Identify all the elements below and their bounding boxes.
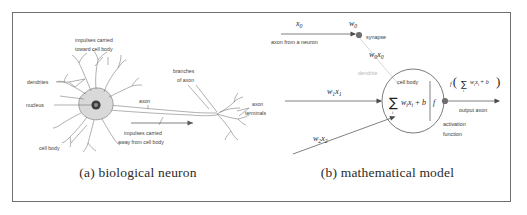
incoming-axon-arrow: [281, 32, 356, 37]
label-product-w0x0: w0x0: [369, 50, 384, 60]
summation-sigma: ∑: [389, 95, 398, 110]
output-node-dot: [442, 98, 448, 104]
output-expression: f(: [450, 74, 457, 89]
output-sigma-index: i: [463, 89, 464, 93]
label-cell-body-math: cell body: [397, 79, 419, 85]
panel-biological-neuron: impulses carried toward cell body dendri…: [13, 13, 263, 201]
summation-body: wixi+ b: [401, 98, 426, 108]
input-arrow-w1x1: [285, 99, 382, 104]
mathematical-model-drawing: x0 w0 axon from a neuron synapse w0x0 de…: [263, 13, 512, 163]
label-input-w1x1: w1x1: [327, 87, 342, 97]
caption-mathematical-model: (b) mathematical model: [263, 165, 512, 181]
label-impulses-away-line1: impulses carried: [124, 130, 162, 136]
output-sigma: ∑: [461, 79, 467, 89]
label-branches-line2: of axon: [177, 77, 194, 83]
label-input-x0: x0: [295, 19, 303, 29]
label-dendrites: dendrites: [27, 79, 49, 85]
label-nucleus: nucleus: [26, 102, 44, 108]
label-output-axon: output axon: [459, 107, 487, 113]
label-f-symbol: f: [433, 98, 437, 107]
label-axon: axon: [139, 98, 150, 104]
output-paren-close: ): [496, 74, 500, 89]
label-weight-w0: w0: [349, 19, 357, 29]
label-impulses-toward-line2: toward cell body: [75, 46, 113, 52]
output-axon-arrow: [448, 99, 500, 104]
biological-neuron-drawing: impulses carried toward cell body dendri…: [13, 13, 263, 163]
label-cell-body: cell body: [39, 145, 60, 151]
impulse-direction-arrow: [131, 121, 193, 126]
label-activation-line1: activation: [443, 121, 466, 127]
synapse-dot: [356, 32, 362, 38]
label-impulses-away-line2: away from cell body: [118, 139, 164, 145]
label-impulses-toward-line1: impulses carried: [75, 37, 113, 43]
summation-index: i: [392, 110, 394, 115]
label-synapse: synapse: [366, 34, 386, 40]
label-branches-line1: branches: [173, 68, 195, 74]
label-activation-line2: function: [443, 131, 462, 137]
panel-mathematical-model: x0 w0 axon from a neuron synapse w0x0 de…: [263, 13, 512, 201]
output-sum-body: wixi+ b: [470, 79, 489, 87]
input-arrow-w2x2: [293, 116, 396, 154]
label-axon-terminals-line1: axon: [252, 101, 263, 107]
label-dendrite: dendrite: [358, 70, 377, 76]
figure-frame: impulses carried toward cell body dendri…: [12, 12, 511, 202]
caption-biological-neuron: (a) biological neuron: [13, 165, 263, 181]
label-input-w2x2: w2x2: [313, 134, 328, 144]
label-axon-from-a-neuron: axon from a neuron: [271, 39, 318, 45]
